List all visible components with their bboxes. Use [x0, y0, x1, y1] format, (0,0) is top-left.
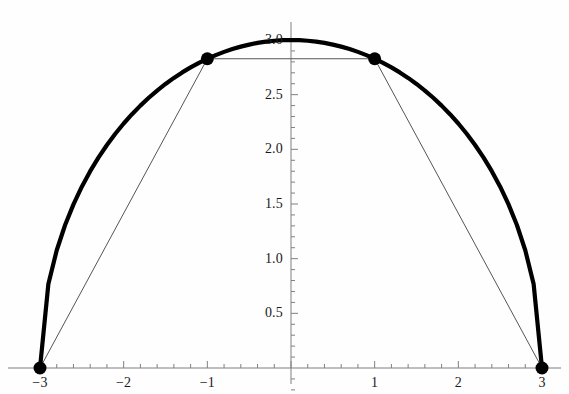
- axes-layer: [8, 22, 561, 390]
- data-point-marker: [201, 52, 214, 65]
- y-tick-label: 2.0: [253, 141, 283, 157]
- x-tick-label: 3: [538, 375, 545, 391]
- x-tick-label: −3: [32, 375, 47, 391]
- y-tick-label: 2.5: [253, 87, 283, 103]
- x-tick-label: 2: [455, 375, 462, 391]
- data-point-marker: [34, 362, 47, 375]
- data-point-marker: [536, 362, 549, 375]
- y-tick-label: 1.0: [253, 251, 283, 267]
- plot-canvas: [0, 0, 569, 394]
- data-point-marker: [368, 52, 381, 65]
- plot-figure: −3−2−1123 0.51.01.52.02.53.0: [0, 0, 569, 394]
- y-tick-label: 0.5: [253, 305, 283, 321]
- x-tick-label: 1: [371, 375, 378, 391]
- x-tick-label: −2: [116, 375, 131, 391]
- y-tick-label: 1.5: [253, 196, 283, 212]
- x-tick-label: −1: [200, 375, 215, 391]
- y-tick-label: 3.0: [253, 32, 283, 48]
